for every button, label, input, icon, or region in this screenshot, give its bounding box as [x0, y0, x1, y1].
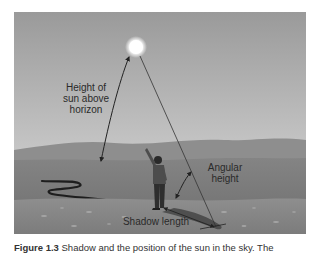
- caption-number: Figure 1.3: [14, 242, 59, 253]
- shadow-length-label: Shadow length: [118, 216, 194, 227]
- angular-height-label: Angular height: [202, 162, 248, 184]
- sun-height-label: Height of sun above horizon: [58, 82, 114, 115]
- shadow-sun-diagram: Height of sun above horizon Angular heig…: [14, 12, 306, 234]
- caption-text: Shadow and the position of the sun in th…: [62, 242, 274, 253]
- figure-caption: Figure 1.3 Shadow and the position of th…: [14, 242, 314, 254]
